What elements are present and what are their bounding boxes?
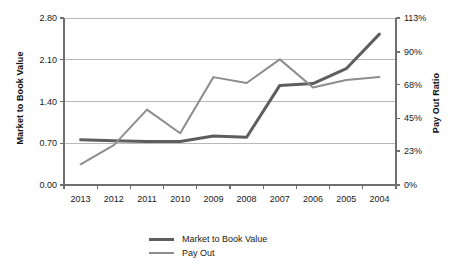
legend-item-label: Market to Book Value [182, 234, 267, 244]
chart-legend: Market to Book Value Pay Out [149, 232, 379, 260]
legend-swatch-icon [149, 238, 174, 241]
legend-item-label: Pay Out [182, 248, 215, 258]
gridlines [64, 18, 396, 185]
axis-ticks [60, 18, 400, 189]
data-series [81, 34, 380, 164]
legend-item-pay-out[interactable]: Pay Out [149, 246, 379, 260]
chart-container: Market to Book Value Pay Out Ratio 2.80 … [0, 0, 454, 275]
legend-item-market-to-book-value[interactable]: Market to Book Value [149, 232, 379, 246]
legend-swatch-icon [149, 252, 174, 254]
